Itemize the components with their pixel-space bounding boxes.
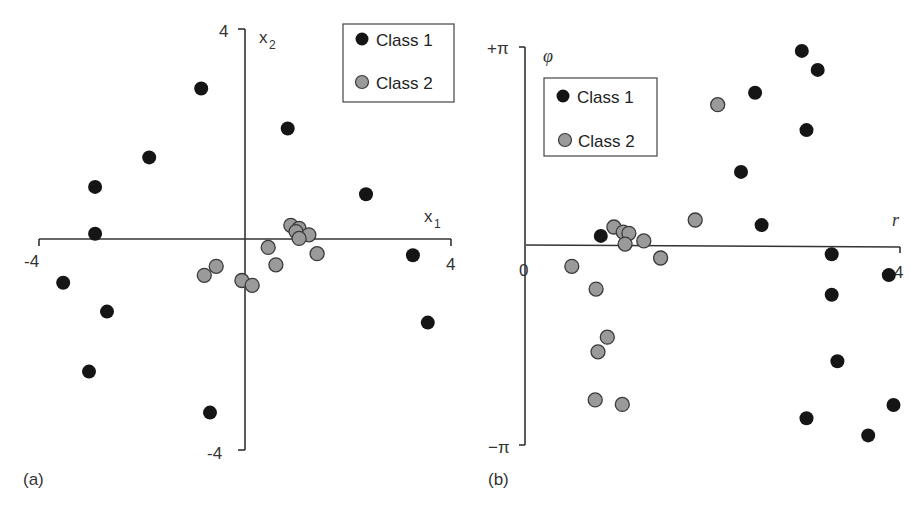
class1-point xyxy=(142,150,156,164)
class2-point xyxy=(589,282,603,296)
class1-point xyxy=(100,305,114,319)
panel-a-ytick-min: -4 xyxy=(207,444,222,463)
class1-point xyxy=(800,123,814,137)
legend-class2-marker-icon xyxy=(356,76,369,89)
panel-a-label: (a) xyxy=(23,470,44,489)
class1-point xyxy=(825,247,839,261)
panel-b-scatter: 0 4 +π −π r φ Class 1 Class 2 (b) xyxy=(487,39,903,489)
legend-class1-marker-icon xyxy=(356,33,369,46)
class1-point xyxy=(748,86,762,100)
class2-point xyxy=(310,247,324,261)
class1-point xyxy=(194,82,208,96)
panel-a-scatter: -4 4 4 -4 x 1 x 2 Class 1 Class 2 (a) xyxy=(23,22,455,489)
figure-canvas: -4 4 4 -4 x 1 x 2 Class 1 Class 2 (a) xyxy=(0,0,923,511)
class1-point xyxy=(795,44,809,58)
class1-point xyxy=(203,406,217,420)
class2-point xyxy=(588,393,602,407)
legend-class1-label: Class 1 xyxy=(376,31,433,50)
class2-point xyxy=(261,240,275,254)
class1-point xyxy=(800,411,814,425)
class2-point xyxy=(688,213,702,227)
legend-class2-marker-icon xyxy=(559,134,572,147)
svg-text:x: x xyxy=(424,207,433,226)
class1-point xyxy=(88,180,102,194)
class1-point xyxy=(882,268,896,282)
class1-point xyxy=(359,187,373,201)
class2-point xyxy=(269,258,283,272)
panel-b-ytick-min: −π xyxy=(488,438,510,457)
legend-class2-label: Class 2 xyxy=(578,132,635,151)
panel-a-ylabel: x 2 xyxy=(259,28,276,52)
class2-point xyxy=(292,231,306,245)
legend-class1-marker-icon xyxy=(557,90,570,103)
panel-b-xtick-min: 0 xyxy=(519,261,528,280)
class2-point xyxy=(654,251,668,265)
class1-point xyxy=(830,354,844,368)
class1-point xyxy=(887,398,901,412)
panel-a-xtick-min: -4 xyxy=(24,252,39,271)
class1-point xyxy=(281,122,295,136)
class1-point xyxy=(825,288,839,302)
legend-class2-label: Class 2 xyxy=(376,74,433,93)
panel-b-xtick-max: 4 xyxy=(894,263,903,282)
class2-point xyxy=(637,234,651,248)
class2-point xyxy=(615,397,629,411)
panel-b-label: (b) xyxy=(488,470,509,489)
legend-class1-label: Class 1 xyxy=(577,88,634,107)
class1-point xyxy=(755,218,769,232)
class1-point xyxy=(594,229,608,243)
panel-a-xlabel: x 1 xyxy=(424,207,441,231)
class2-point xyxy=(591,345,605,359)
class1-point xyxy=(734,165,748,179)
panel-b-ylabel: φ xyxy=(543,46,553,66)
svg-text:x: x xyxy=(259,28,268,47)
class1-point xyxy=(861,428,875,442)
panel-a-legend: Class 1 Class 2 xyxy=(343,24,454,102)
class2-point xyxy=(618,237,632,251)
class1-point xyxy=(88,227,102,241)
class2-point xyxy=(600,330,614,344)
panel-a-ytick-max: 4 xyxy=(219,22,228,41)
class1-point xyxy=(56,276,70,290)
class2-point xyxy=(209,259,223,273)
class2-point xyxy=(197,268,211,282)
class1-point xyxy=(406,248,420,262)
panel-b-ytick-max: +π xyxy=(487,39,509,58)
class1-point xyxy=(82,365,96,379)
svg-text:1: 1 xyxy=(434,217,441,231)
class1-point xyxy=(811,63,825,77)
class2-point xyxy=(245,278,259,292)
class1-point xyxy=(421,316,435,330)
panel-a-xtick-max: 4 xyxy=(446,255,455,274)
class2-point xyxy=(711,98,725,112)
panel-b-xlabel: r xyxy=(892,210,900,230)
panel-b-legend: Class 1 Class 2 xyxy=(544,78,657,156)
svg-text:2: 2 xyxy=(269,38,276,52)
class2-point xyxy=(565,259,579,273)
